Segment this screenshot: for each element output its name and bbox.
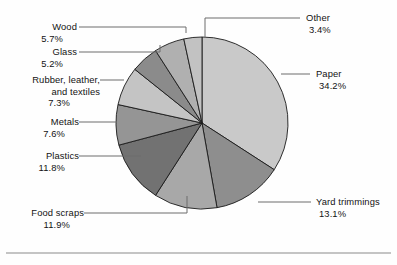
slice-label-plastics-name: Plastics — [39, 150, 79, 162]
slice-label-yard-trimmings: Yard trimmings 13.1% — [316, 196, 380, 219]
slice-label-food-scraps: Food scraps 11.9% — [31, 207, 84, 230]
leader-line-other — [205, 18, 300, 38]
slice-label-food-scraps-name: Food scraps — [31, 207, 84, 219]
pie-slices-group — [116, 37, 288, 209]
slice-label-plastics: Plastics 11.8% — [39, 150, 79, 173]
slice-label-paper-value: 34.2% — [316, 80, 346, 92]
slice-label-other: Other 3.4% — [306, 12, 331, 35]
slice-label-rubber-leather-textiles: Rubber, leather, and textiles 7.3% — [32, 74, 100, 109]
slice-label-rubber-value: 7.3% — [32, 97, 100, 109]
slice-label-wood-value: 5.7% — [41, 33, 77, 45]
slice-label-food-scraps-value: 11.9% — [31, 219, 84, 231]
slice-label-yard-trimmings-name: Yard trimmings — [316, 196, 380, 208]
slice-label-rubber-name-line2: and textiles — [32, 86, 100, 98]
slice-label-other-name: Other — [306, 12, 331, 24]
leader-line-glass — [79, 45, 160, 52]
slice-label-plastics-value: 11.8% — [39, 162, 79, 174]
leader-line-wood — [79, 27, 186, 33]
slice-label-rubber-name-line1: Rubber, leather, — [32, 74, 100, 86]
slice-label-glass-name: Glass — [41, 46, 77, 58]
slice-label-metals: Metals 7.6% — [43, 116, 79, 139]
slice-label-other-value: 3.4% — [306, 24, 331, 36]
slice-label-glass-value: 5.2% — [41, 58, 77, 70]
pie-chart-figure: Wood 5.7% Glass 5.2% Rubber, leather, an… — [0, 0, 397, 265]
slice-label-metals-value: 7.6% — [43, 128, 79, 140]
slice-label-glass: Glass 5.2% — [41, 46, 77, 69]
slice-label-wood-name: Wood — [41, 21, 77, 33]
slice-label-paper-name: Paper — [316, 68, 346, 80]
slice-label-yard-trimmings-value: 13.1% — [316, 208, 380, 220]
slice-label-paper: Paper 34.2% — [316, 68, 346, 91]
slice-label-metals-name: Metals — [43, 116, 79, 128]
slice-label-wood: Wood 5.7% — [41, 21, 77, 44]
